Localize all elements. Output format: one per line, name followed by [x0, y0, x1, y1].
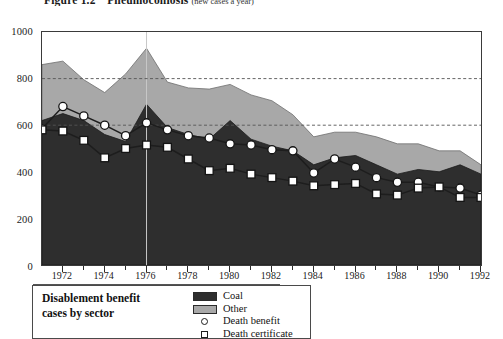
marker-death-certificate: [373, 190, 381, 198]
y-axis-label-600: 600: [17, 120, 33, 131]
marker-death-certificate: [205, 167, 213, 175]
plot-area: [41, 31, 482, 266]
marker-death-certificate: [289, 177, 297, 185]
legend-label: Other: [223, 303, 247, 314]
marker-death-certificate: [42, 126, 46, 134]
chart-svg: [42, 32, 481, 265]
legend-row: Death benefit: [193, 315, 308, 328]
x-axis-label-1974: 1974: [94, 270, 114, 281]
legend-title-line1: Disablement benefit: [42, 292, 140, 304]
marker-death-benefit: [142, 119, 150, 127]
marker-death-benefit: [59, 102, 67, 110]
marker-death-certificate: [352, 180, 360, 188]
marker-death-benefit: [372, 174, 380, 182]
marker-death-certificate: [456, 194, 464, 202]
marker-death-certificate: [331, 181, 339, 189]
marker-death-certificate: [59, 127, 67, 135]
marker-death-certificate: [414, 184, 422, 192]
x-axis-label-1972: 1972: [52, 270, 72, 281]
marker-death-certificate: [247, 170, 255, 178]
x-axis-label-1980: 1980: [219, 270, 239, 281]
legend-label: Coal: [223, 290, 243, 301]
x-axis-label-1982: 1982: [261, 270, 281, 281]
marker-death-certificate: [122, 145, 130, 153]
marker-death-certificate: [164, 143, 172, 151]
figure-title-label: Figure 1.2: [44, 0, 96, 6]
x-axis-labels: 1972197419761978198019821984198619881990…: [0, 270, 503, 284]
marker-death-certificate: [226, 164, 234, 172]
legend-label: Death benefit: [223, 315, 280, 326]
x-axis-label-1976: 1976: [135, 270, 155, 281]
legend-row: Other: [193, 303, 308, 316]
marker-death-benefit: [122, 132, 130, 140]
marker-death-benefit: [456, 184, 464, 192]
legend-circle-marker-icon: [201, 318, 208, 325]
figure-title: Figure 1.2 Pneumoconiosis (new cases a y…: [44, 0, 464, 6]
marker-death-benefit: [184, 132, 192, 140]
x-axis-label-1978: 1978: [177, 270, 197, 281]
y-axis-label-800: 800: [17, 73, 33, 84]
marker-death-certificate: [184, 155, 192, 163]
marker-death-benefit: [163, 126, 171, 134]
x-axis-label-1988: 1988: [386, 270, 406, 281]
x-axis-label-1984: 1984: [303, 270, 323, 281]
legend-swatch-icon: [193, 292, 217, 301]
marker-death-benefit: [289, 147, 297, 155]
marker-death-certificate: [143, 141, 151, 149]
y-axis-label-400: 400: [17, 167, 33, 178]
marker-death-certificate: [477, 194, 481, 202]
y-axis-label-200: 200: [17, 214, 33, 225]
marker-death-benefit: [351, 163, 359, 171]
marker-death-certificate: [268, 174, 276, 182]
marker-death-certificate: [393, 191, 401, 199]
figure-container: Figure 1.2 Pneumoconiosis (new cases a y…: [0, 0, 503, 339]
marker-death-benefit: [331, 155, 339, 163]
marker-death-benefit: [101, 121, 109, 129]
marker-death-benefit: [226, 140, 234, 148]
marker-death-benefit: [393, 178, 401, 186]
legend-square-marker-icon: [201, 331, 208, 338]
legend-swatch-icon: [193, 305, 217, 314]
legend-label: Death certificate: [223, 328, 293, 339]
x-axis-label-1990: 1990: [428, 270, 448, 281]
marker-death-certificate: [80, 136, 88, 144]
x-axis-label-1986: 1986: [344, 270, 364, 281]
chart-legend: Disablement benefit cases by sector Coal…: [32, 285, 311, 339]
marker-death-certificate: [310, 182, 318, 190]
legend-row: Death certificate: [193, 328, 308, 339]
marker-death-benefit: [247, 141, 255, 149]
legend-entries: CoalOtherDeath benefitDeath certificate: [193, 290, 308, 339]
marker-death-benefit: [80, 112, 88, 120]
y-axis-labels: 02004006008001000: [0, 31, 38, 266]
x-axis-label-1992: 1992: [470, 270, 490, 281]
figure-title-text: Pneumoconiosis: [107, 0, 188, 6]
marker-death-benefit: [310, 169, 318, 177]
legend-title: Disablement benefit cases by sector: [42, 291, 192, 320]
figure-title-note: (new cases a year): [191, 0, 254, 6]
marker-death-benefit: [268, 146, 276, 154]
marker-death-benefit: [205, 134, 213, 142]
marker-death-certificate: [435, 183, 443, 191]
y-axis-label-1000: 1000: [11, 26, 33, 37]
marker-death-certificate: [101, 154, 109, 162]
legend-row: Coal: [193, 290, 308, 303]
legend-title-line2: cases by sector: [42, 307, 114, 319]
